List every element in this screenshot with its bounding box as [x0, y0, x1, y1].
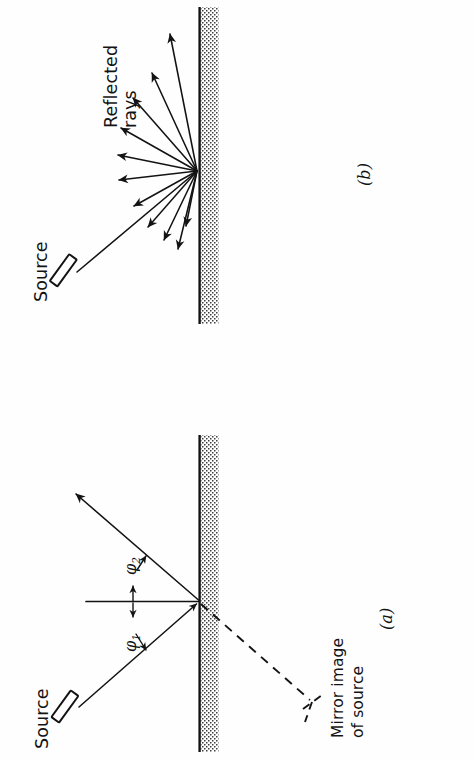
specular-reflection-rays	[76, 494, 199, 707]
figure-canvas	[0, 0, 474, 759]
reflected-ray-7	[134, 171, 197, 206]
reflected-ray-1	[170, 34, 197, 171]
mirror-surface-panel-b	[200, 7, 219, 324]
mirror-image-label-line2: of source	[350, 666, 367, 738]
panel-caption-a: (a)	[378, 608, 395, 630]
source-lamp-panel-a	[51, 690, 78, 722]
phi1-symbol: φ	[121, 641, 140, 652]
mirror-surface-panel-a	[200, 435, 219, 752]
reflected-ray	[76, 494, 199, 600]
mirror-image-source-marker	[303, 695, 322, 722]
phi2-symbol: φ	[121, 564, 140, 575]
angle-phi1-label: φ1	[122, 634, 143, 652]
reflected-rays-label-line1: Reflected rays	[102, 45, 140, 128]
reflected-ray-6	[119, 171, 197, 180]
source-label-panel-b: Source	[32, 241, 51, 302]
incident-ray	[79, 604, 197, 707]
panel-caption-b: (b)	[356, 163, 373, 186]
reflected-ray-2	[152, 73, 197, 171]
angle-phi2-label: φ2	[122, 557, 143, 575]
incident-ray	[77, 172, 196, 272]
phi2-subscript: 2	[130, 557, 142, 564]
figure-root: Source Reflected rays (b) Source Mirror …	[0, 0, 474, 759]
reflected-ray-4	[121, 128, 197, 171]
mirror-image-label-line1: Mirror image	[330, 638, 347, 738]
phi1-subscript: 1	[130, 634, 142, 641]
reflected-ray-9	[164, 171, 197, 240]
source-label-panel-a: Source	[33, 688, 52, 749]
source-lamp-panel-b	[50, 254, 77, 286]
